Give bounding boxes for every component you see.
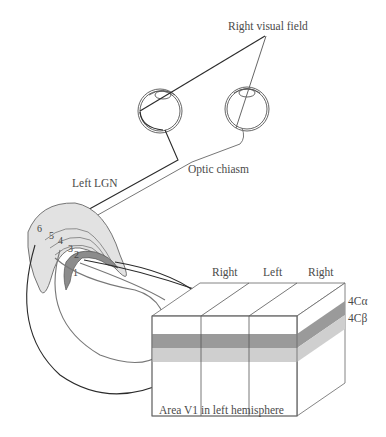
- lgn-layer-2: 2: [74, 249, 79, 260]
- ray-to-left-eye: [140, 36, 265, 111]
- column-label-right-1: Right: [212, 266, 238, 279]
- layer-4c-alpha-label: 4Cα: [348, 295, 367, 307]
- optic-chiasm-label: Optic chiasm: [188, 163, 249, 176]
- band-4c-alpha-front: [152, 334, 297, 348]
- column-label-right-2: Right: [308, 266, 334, 279]
- visual-pathway-diagram: 6 5 4 3 2 1 Right visual field Optic chi…: [0, 0, 386, 437]
- left-eye: [138, 89, 182, 133]
- layer-4c-beta-label: 4Cβ: [348, 312, 367, 325]
- area-v1-label: Area V1 in left hemisphere: [159, 404, 284, 417]
- lgn-layer-3: 3: [68, 243, 73, 254]
- lgn-layer-6: 6: [37, 223, 42, 234]
- left-lgn-label: Left LGN: [72, 177, 118, 189]
- left-lgn: [28, 203, 127, 293]
- v1-block: [152, 283, 345, 416]
- lgn-layer-4: 4: [58, 235, 63, 246]
- column-label-left: Left: [263, 266, 283, 278]
- lgn-outer-shell: [28, 203, 127, 293]
- optic-nerve-ipsilateral: [84, 130, 178, 212]
- ray-to-right-eye: [236, 36, 266, 128]
- lgn-layer-5: 5: [49, 230, 54, 241]
- right-visual-field-label: Right visual field: [228, 20, 308, 33]
- band-4c-beta-front: [152, 348, 297, 362]
